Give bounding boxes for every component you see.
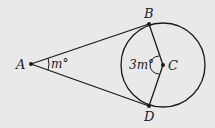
geometry-diagram: A B C D m° 3m° <box>0 0 215 128</box>
angle-label-a: m° <box>51 57 68 71</box>
point-d <box>147 104 151 108</box>
point-b <box>147 22 151 26</box>
label-c: C <box>168 58 178 73</box>
point-a <box>29 62 33 66</box>
label-d: D <box>143 109 155 124</box>
angle-label-c: 3m° <box>129 58 154 72</box>
point-c <box>161 63 165 67</box>
label-b: B <box>143 6 154 21</box>
label-a: A <box>15 57 25 72</box>
angle-arc-a <box>48 58 49 70</box>
